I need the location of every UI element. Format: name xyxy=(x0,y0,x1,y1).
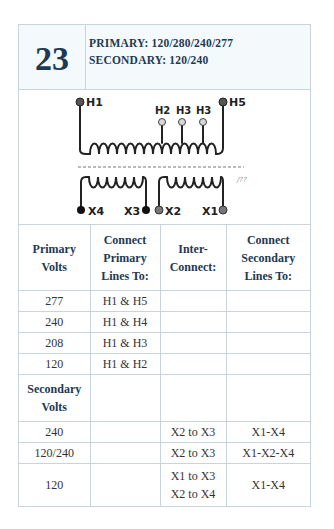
connection-table: Primary Volts Connect Primary Lines To: … xyxy=(19,225,310,506)
connect-secondary-cell xyxy=(226,354,310,375)
connect-primary-cell: H1 & H5 xyxy=(90,291,160,312)
label-h2: H2 xyxy=(155,105,170,116)
primary-volts-cell: 277 xyxy=(19,291,90,312)
connect-secondary-cell: X1-X4 xyxy=(226,464,310,507)
terminal-h1-icon xyxy=(76,98,84,106)
empty-cell xyxy=(160,375,226,422)
label-x4: X4 xyxy=(88,205,104,218)
column-header-row: Primary Volts Connect Primary Lines To: … xyxy=(19,225,310,291)
secondary-volts-label: Secondary Volts xyxy=(19,375,90,422)
primary-volts-cell: 240 xyxy=(19,312,90,333)
terminal-h3b-icon xyxy=(200,119,207,126)
connect-secondary-cell: X1-X4 xyxy=(226,422,310,443)
secondary-volts-cell: 120 xyxy=(19,464,90,507)
col-header-interconnect: Inter- Connect: xyxy=(160,225,226,291)
transformer-schematic-icon: /?? H1 H5 H2 H3 H3 X4 X3 X2 X1 xyxy=(1,2,334,232)
interconnect-cell xyxy=(160,354,226,375)
primary-volts-cell: 208 xyxy=(19,333,90,354)
connect-primary-cell xyxy=(90,422,160,443)
secondary-volts-cell: 120/240 xyxy=(19,443,90,464)
terminal-h3a-icon xyxy=(179,119,186,126)
primary-volts-cell: 120 xyxy=(19,354,90,375)
terminal-x1-icon xyxy=(219,206,227,214)
col-header-connect-primary: Connect Primary Lines To: xyxy=(90,225,160,291)
secondary-volts-header-row: Secondary Volts xyxy=(19,375,310,422)
table-row: 277 H1 & H5 xyxy=(19,291,310,312)
connect-primary-cell xyxy=(90,443,160,464)
label-x2: X2 xyxy=(165,205,181,218)
label-x3: X3 xyxy=(124,205,140,218)
table-row: 120 H1 & H2 xyxy=(19,354,310,375)
connect-primary-cell xyxy=(90,464,160,507)
label-h1: H1 xyxy=(86,96,103,109)
connect-secondary-cell xyxy=(226,312,310,333)
interconnect-cell: X2 to X3 xyxy=(160,443,226,464)
table-row: 208 H1 & H3 xyxy=(19,333,310,354)
terminal-h5-icon xyxy=(219,98,227,106)
empty-cell xyxy=(226,375,310,422)
table-row: 240 X2 to X3 X1-X4 xyxy=(19,422,310,443)
connect-secondary-cell xyxy=(226,291,310,312)
empty-cell xyxy=(90,375,160,422)
label-h3b: H3 xyxy=(196,105,211,116)
table-row: 120/240 X2 to X3 X1-X2-X4 xyxy=(19,443,310,464)
interconnect-cell xyxy=(160,312,226,333)
label-h3a: H3 xyxy=(176,105,191,116)
secondary-volts-cell: 240 xyxy=(19,422,90,443)
connect-primary-cell: H1 & H3 xyxy=(90,333,160,354)
svg-text:/??: /?? xyxy=(236,176,247,184)
terminal-x2-icon xyxy=(155,206,163,214)
terminal-h2-icon xyxy=(159,119,166,126)
col-header-primary-volts: Primary Volts xyxy=(19,225,90,291)
table-row: 240 H1 & H4 xyxy=(19,312,310,333)
connect-secondary-cell: X1-X2-X4 xyxy=(226,443,310,464)
connect-secondary-cell xyxy=(226,333,310,354)
terminal-x4-icon xyxy=(77,206,85,214)
table-row: 120 X1 to X3 X2 to X4 X1-X4 xyxy=(19,464,310,507)
interconnect-cell: X2 to X3 xyxy=(160,422,226,443)
interconnect-cell xyxy=(160,291,226,312)
terminal-x3-icon xyxy=(142,206,150,214)
wiring-diagram: /?? H1 H5 H2 H3 H3 X4 X3 X2 X1 xyxy=(19,90,310,225)
connect-primary-cell: H1 & H2 xyxy=(90,354,160,375)
label-h5: H5 xyxy=(229,96,246,109)
interconnect-cell: X1 to X3 X2 to X4 xyxy=(160,464,226,507)
transformer-connection-card: 23 PRIMARY: 120/280/240/277 SECONDARY: 1… xyxy=(18,24,311,507)
connect-primary-cell: H1 & H4 xyxy=(90,312,160,333)
col-header-connect-secondary: Connect Secondary Lines To: xyxy=(226,225,310,291)
interconnect-cell xyxy=(160,333,226,354)
label-x1: X1 xyxy=(202,205,218,218)
